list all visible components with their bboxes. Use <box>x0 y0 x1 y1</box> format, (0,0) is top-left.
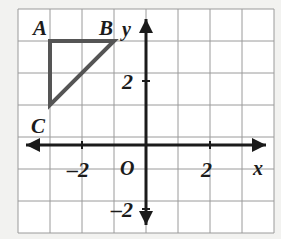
point-label-a: A <box>31 16 47 40</box>
y-axis-label: y <box>120 18 131 41</box>
coordinate-grid-figure: A B C –2 2 2 –2 O x y <box>0 0 281 239</box>
x-axis-label: x <box>252 157 263 179</box>
graph-canvas: A B C –2 2 2 –2 O x y <box>0 0 281 239</box>
origin-label: O <box>120 157 134 179</box>
point-label-c: C <box>31 114 46 138</box>
x-tick-label-2: 2 <box>200 157 212 182</box>
y-tick-label-neg2: –2 <box>110 197 133 222</box>
x-tick-label-neg2: –2 <box>66 157 89 182</box>
y-tick-label-2: 2 <box>121 69 133 94</box>
point-label-b: B <box>98 16 113 40</box>
